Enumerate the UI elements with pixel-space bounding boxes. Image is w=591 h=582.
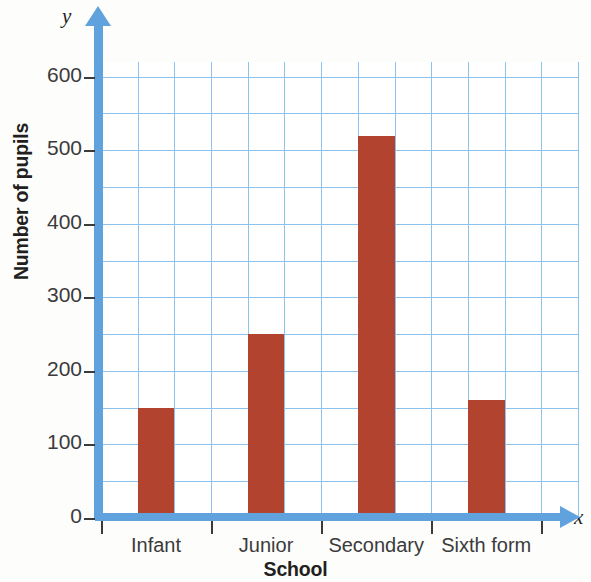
gridline-vertical [578, 62, 579, 518]
gridline-vertical [541, 62, 542, 518]
y-tick-label: 0 [24, 504, 82, 528]
y-tick-label: 100 [24, 430, 82, 454]
x-axis-line [95, 513, 568, 521]
gridline-vertical [505, 62, 506, 518]
bar-infant [138, 408, 175, 518]
gridline-vertical [395, 62, 396, 518]
gridline-vertical [211, 62, 212, 518]
y-tick-label: 500 [24, 136, 82, 160]
y-tick-mark [84, 371, 95, 373]
gridline-horizontal [101, 150, 578, 151]
gridline-horizontal [101, 334, 578, 335]
y-tick-label: 300 [24, 283, 82, 307]
gridline-vertical [174, 62, 175, 518]
y-tick-label: 200 [24, 357, 82, 381]
x-axis-title: School [0, 558, 591, 581]
gridline-horizontal [101, 371, 578, 372]
y-tick-label: 600 [24, 63, 82, 87]
y-tick-mark [84, 77, 95, 79]
gridline-horizontal [101, 113, 578, 114]
x-tick-mark [541, 521, 543, 534]
gridline-horizontal [101, 297, 578, 298]
y-tick-label: 400 [24, 210, 82, 234]
bar-chart: Number of pupils y x 0100200300400500600… [0, 0, 591, 582]
x-tick-mark [101, 521, 103, 534]
y-tick-mark [84, 150, 95, 152]
gridline-horizontal [101, 224, 578, 225]
gridline-vertical [431, 62, 432, 518]
y-tick-mark [84, 444, 95, 446]
plot-area [101, 62, 578, 518]
bar-sixth-form [468, 400, 505, 518]
gridline-horizontal [101, 77, 578, 78]
y-axis-arrow-icon [85, 6, 111, 26]
bar-junior [248, 334, 285, 518]
y-tick-mark [84, 224, 95, 226]
gridline-horizontal [101, 187, 578, 188]
bar-secondary [358, 136, 395, 518]
x-tick-mark [321, 521, 323, 534]
x-tick-mark [211, 521, 213, 534]
y-tick-mark [84, 518, 95, 520]
x-tick-mark [431, 521, 433, 534]
x-category-label-sixth-form: Sixth form [416, 534, 556, 557]
gridline-vertical [321, 62, 322, 518]
gridline-horizontal [101, 261, 578, 262]
y-axis-line [94, 22, 103, 519]
x-axis-arrow-icon [560, 506, 580, 528]
gridline-vertical [284, 62, 285, 518]
y-tick-mark [84, 297, 95, 299]
y-tick-labels: 0100200300400500600 [0, 0, 82, 582]
